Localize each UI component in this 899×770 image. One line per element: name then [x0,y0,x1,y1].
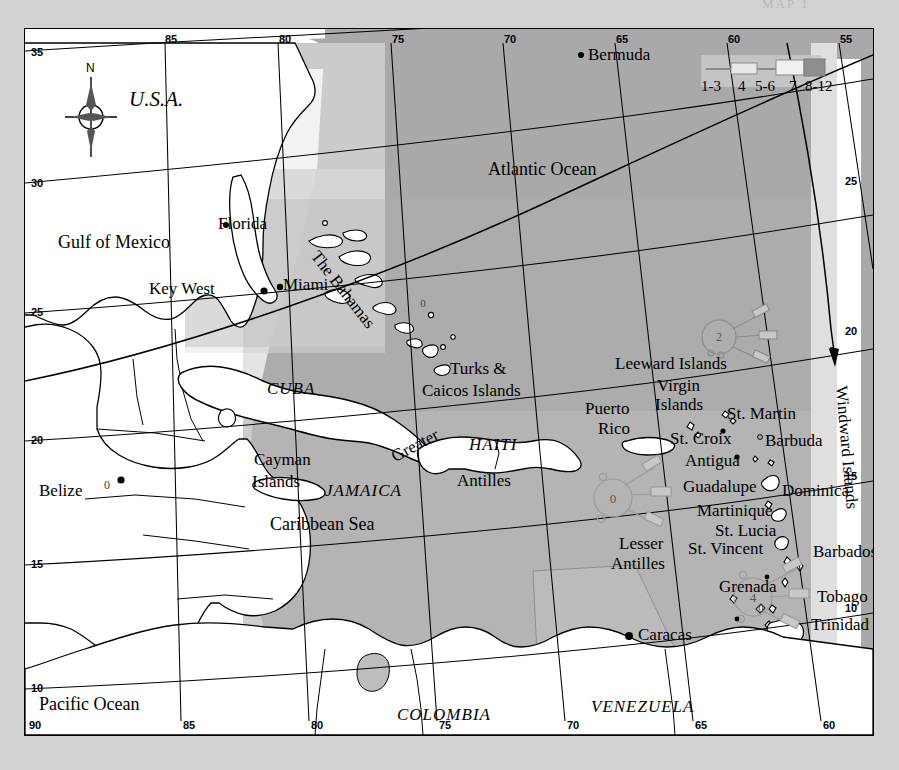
label-pacific-ocean: Pacific Ocean [39,694,139,715]
label-turks: Turks & [450,359,507,379]
compass-north-label: N [86,61,95,75]
label-key-west: Key West [149,279,215,299]
legend-label-5-6: 5-6 [755,78,775,95]
label-st-croix: St. Croix [670,429,731,449]
city-dot-bermuda [578,52,584,58]
cut-off-header: MAP 1 [762,0,809,12]
label-st-vincent: St. Vincent [688,539,763,559]
legend-label-1-3: 1-3 [701,78,721,95]
label-virgin: Virgin [657,376,700,396]
land-cuba-isle [218,409,235,427]
grid-label-bottom-85: 85 [183,719,195,731]
grid-label-left-35: 35 [31,46,43,58]
wind-rose-st-vincent-value: 0 [758,602,764,614]
city-dot-key-west [260,287,267,294]
lake-maracaibo [357,653,389,691]
label-caribbean-sea: Caribbean Sea [270,514,374,535]
label-puerto: Puerto [585,399,629,419]
wind-rose-leeward-value: 2 [716,330,722,344]
grid-label-left-30: 30 [31,177,43,189]
label-haiti: HAITI [469,435,517,455]
grid-label-bottom-65: 65 [695,719,707,731]
legend-label-8-12: 8-12 [805,78,833,95]
grid-label-left-20: 20 [31,434,43,446]
map-page: MAP 1 [0,0,899,770]
grid-label-bottom-70: 70 [567,719,579,731]
label-gulf-of-mexico: Gulf of Mexico [58,232,170,253]
label-barbados: Barbados [813,542,874,562]
grid-label-left-25: 25 [31,306,43,318]
label-cayman-islands: Islands [252,472,300,492]
label-colombia: COLOMBIA [397,705,491,725]
label-leeward-islands: Leeward Islands [615,354,727,374]
grid-label-top-70: 70 [504,33,516,45]
grid-label-top-65: 65 [616,33,628,45]
label-rico: Rico [598,419,630,439]
label-lesser-antilles: Antilles [611,554,665,574]
island-dot-grenada [735,617,740,622]
label-belize: Belize [39,481,82,501]
grid-label-top-55: 55 [840,33,852,45]
label-caicos-islands: Caicos Islands [422,381,521,401]
label-greater-antilles: Antilles [457,471,511,491]
legend-label-4: 4 [738,78,746,95]
city-dot-caracas [625,632,633,640]
label-cayman: Cayman [254,450,311,470]
label-tobago: Tobago [817,587,868,607]
grid-label-top-60: 60 [728,33,740,45]
label-bermuda: Bermuda [588,45,650,65]
wind-rose-bahamas-value: 0 [420,297,426,309]
grid-label-top-80: 80 [279,33,291,45]
land-puerto-rico [622,438,674,455]
wind-rose-puerto-rico-value: 0 [610,491,617,506]
grid-label-bottom-60: 60 [823,719,835,731]
label-martinique: Martinique [697,501,773,521]
label-virgin-islands: Islands [655,395,703,415]
label-venezuela: VENEZUELA [591,697,694,717]
grid-label-bottom-90: 90 [29,719,41,731]
label-grenada: Grenada [719,577,777,597]
wind-rose-belize-value: 0 [104,478,110,492]
grid-label-bottom-80: 80 [311,719,323,731]
label-trinidad: Trinidad [811,615,869,635]
grid-label-top-85: 85 [165,33,177,45]
grid-label-left-10: 10 [31,682,43,694]
label-cuba: CUBA [267,379,315,399]
grid-label-right-25: 25 [845,175,857,187]
label-guadalupe: Guadalupe [683,477,757,497]
city-dot-belize [117,476,124,483]
label-atlantic-ocean: Atlantic Ocean [488,159,596,180]
label-barbuda: Barbuda [765,431,823,451]
grid-label-left-15: 15 [31,558,43,570]
label-st-martin: St. Martin [727,404,796,424]
label-usa: U.S.A. [129,87,183,112]
label-jamaica: JAMAICA [325,481,402,501]
label-florida: Florida [218,214,267,234]
label-antigua: Antigua [685,451,740,471]
label-caracas: Caracas [638,625,692,645]
legend-label-7: 7 [789,78,797,95]
map-frame[interactable]: 2 0 [24,28,874,736]
label-lesser: Lesser [619,534,663,554]
grid-label-top-75: 75 [392,33,404,45]
label-st-lucia: St. Lucia [715,521,776,541]
grid-label-right-20: 20 [845,325,857,337]
